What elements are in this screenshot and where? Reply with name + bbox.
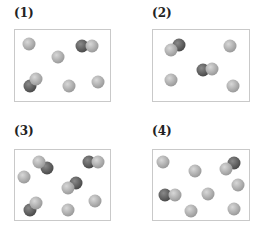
light-atom-p4 bbox=[157, 156, 170, 169]
light-atom-p2 bbox=[165, 74, 178, 87]
light-atom-p1 bbox=[92, 76, 105, 89]
light-atom-p4 bbox=[202, 188, 215, 201]
light-atom-p1 bbox=[63, 80, 76, 93]
light-atom-p2 bbox=[165, 44, 178, 57]
light-atom-p4 bbox=[189, 165, 202, 178]
light-atom-p4 bbox=[232, 179, 245, 192]
light-atom-p3 bbox=[33, 156, 46, 169]
light-atom-p3 bbox=[62, 204, 75, 217]
light-atom-p1 bbox=[30, 73, 43, 86]
light-atom-p3 bbox=[18, 171, 31, 184]
light-atom-p1 bbox=[52, 51, 65, 64]
light-atom-p2 bbox=[206, 63, 219, 76]
light-atom-p3 bbox=[89, 195, 102, 208]
light-atom-p3 bbox=[92, 156, 105, 169]
light-atom-p4 bbox=[169, 189, 182, 202]
atoms-layer bbox=[0, 0, 265, 233]
light-atom-p1 bbox=[23, 38, 36, 51]
light-atom-p4 bbox=[185, 205, 198, 218]
light-atom-p4 bbox=[220, 163, 233, 176]
light-atom-p3 bbox=[62, 182, 75, 195]
light-atom-p4 bbox=[228, 203, 241, 216]
light-atom-p1 bbox=[86, 40, 99, 53]
light-atom-p3 bbox=[30, 197, 43, 210]
light-atom-p2 bbox=[227, 80, 240, 93]
light-atom-p2 bbox=[224, 40, 237, 53]
